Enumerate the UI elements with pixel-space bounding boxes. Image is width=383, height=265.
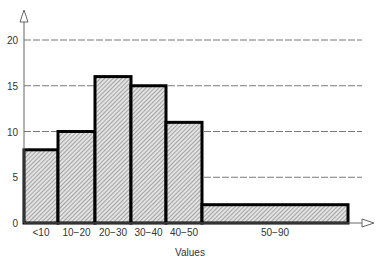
- histogram-bar: [202, 205, 348, 223]
- histogram-bar: [166, 122, 202, 223]
- x-tick-label: 20−30: [99, 227, 128, 238]
- histogram-bars: [24, 77, 348, 223]
- histogram-bar: [58, 132, 95, 224]
- histogram-bar: [131, 86, 166, 223]
- y-tick-labels: 05101520: [7, 35, 19, 229]
- histogram-bar: [24, 150, 58, 223]
- x-tick-label: 30−40: [134, 227, 163, 238]
- y-tick-label: 0: [12, 218, 18, 229]
- x-axis-arrow-icon: [362, 219, 374, 227]
- histogram-bar: [95, 77, 131, 223]
- x-tick-label: 10−20: [62, 227, 91, 238]
- histogram-chart: 05101520 <1010−2020−3030−4040−5050−90 Va…: [0, 0, 383, 265]
- x-axis-label: Values: [175, 247, 205, 258]
- x-tick-label: 40−50: [170, 227, 199, 238]
- x-tick-labels: <1010−2020−3030−4040−5050−90: [33, 227, 290, 238]
- y-tick-label: 10: [7, 127, 19, 138]
- x-tick-label: <10: [33, 227, 50, 238]
- x-tick-label: 50−90: [261, 227, 290, 238]
- y-tick-label: 15: [7, 81, 19, 92]
- y-axis-arrow-icon: [20, 10, 28, 22]
- y-tick-label: 20: [7, 35, 19, 46]
- y-tick-label: 5: [12, 172, 18, 183]
